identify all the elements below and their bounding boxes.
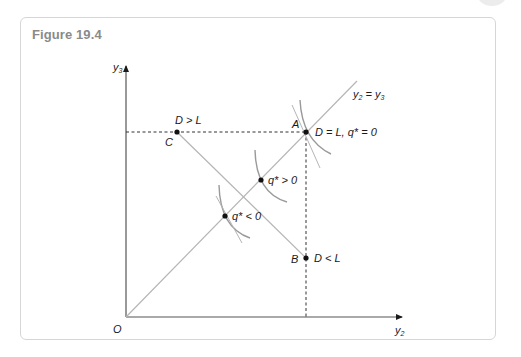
point-c-label: C [165,136,173,148]
point-mid-lower [222,213,227,218]
point-b-annotation: D < L [314,252,341,264]
point-b-label: B [291,253,298,265]
point-mid-lower-annotation: q* < 0 [232,210,262,222]
diagram-canvas: y3 y2 O y2 = y3 A D = L, q* = 0 B D < L … [0,0,521,357]
diagonal-label: y2 = y3 [352,88,384,101]
y-axis-label: y3 [112,61,123,74]
point-a-annotation: D = L, q* = 0 [315,126,378,138]
point-mid-upper [258,177,263,182]
point-c [174,129,179,134]
point-c-annotation: D > L [175,114,202,126]
x-axis-label: y2 [394,324,405,337]
point-b [303,255,308,260]
diagonal-line [126,81,357,317]
budget-line [177,132,306,258]
point-mid-upper-annotation: q* > 0 [268,174,298,186]
point-a [303,129,308,134]
point-a-label: A [291,118,299,130]
origin-label: O [113,323,122,335]
